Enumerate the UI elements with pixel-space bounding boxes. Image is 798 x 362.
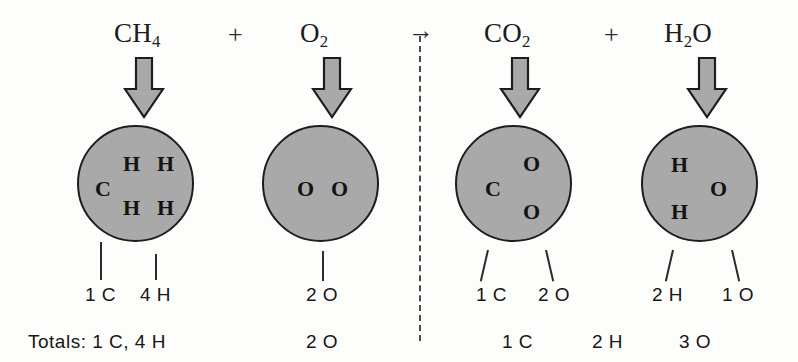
leader-line-oxygen xyxy=(322,251,324,281)
atom-label-o: O xyxy=(523,201,540,223)
molecule-circle-carbon-dioxide: C O O xyxy=(455,125,572,242)
down-arrow-icon-methane xyxy=(123,57,165,123)
formula-oxygen-head: O xyxy=(300,18,320,48)
atom-count-oxygen: 2 O xyxy=(306,284,338,306)
atom-label-h: H xyxy=(123,197,140,219)
atom-label-c: C xyxy=(95,178,111,200)
totals-products-hydrogen: 2 H xyxy=(592,331,623,353)
formula-water-tail: O xyxy=(692,18,712,48)
atom-label-o: O xyxy=(710,178,727,200)
totals-products-oxygen: 3 O xyxy=(679,331,711,353)
down-arrow-icon-carbon-dioxide xyxy=(499,57,541,123)
down-arrow-icon-oxygen xyxy=(311,57,353,123)
combustion-atom-balance-diagram: CH4 + O2 → CO2 + H2O C H H xyxy=(0,0,798,362)
atom-label-h: H xyxy=(671,154,688,176)
leader-line-methane-carbon xyxy=(100,242,102,280)
formula-water-head: H xyxy=(664,18,684,48)
totals-reactants-carbon-hydrogen: Totals: 1 C, 4 H xyxy=(28,331,166,353)
atom-count-methane-hydrogen: 4 H xyxy=(140,284,171,306)
reactant-product-divider xyxy=(419,36,421,341)
totals-reactants-oxygen: 2 O xyxy=(306,331,338,353)
molecule-circle-methane: C H H H H xyxy=(77,125,194,242)
atom-label-h: H xyxy=(671,201,688,223)
atom-count-water-oxygen: 1 O xyxy=(722,284,754,306)
leader-line-methane-hydrogen xyxy=(155,254,157,280)
reaction-arrow-icon: → xyxy=(408,18,434,44)
totals-products-carbon: 1 C xyxy=(502,331,533,353)
leader-line-water-oxygen xyxy=(731,250,740,282)
leader-line-carbon-dioxide-oxygen xyxy=(545,250,554,282)
leader-line-carbon-dioxide-carbon xyxy=(480,250,489,282)
formula-methane: CH4 xyxy=(114,18,160,52)
atom-count-water-hydrogen: 2 H xyxy=(652,284,683,306)
formula-water-subscript: 2 xyxy=(684,32,692,51)
atom-count-carbon-dioxide-carbon: 1 C xyxy=(476,284,507,306)
atom-count-methane-carbon: 1 C xyxy=(85,284,116,306)
molecule-circle-water: H H O xyxy=(641,125,758,242)
down-arrow-icon-water xyxy=(686,57,728,123)
formula-methane-subscript: 4 xyxy=(152,32,160,51)
atom-label-h: H xyxy=(157,153,174,175)
formula-water: H2O xyxy=(664,18,712,52)
atom-label-o: O xyxy=(331,178,348,200)
molecule-circle-oxygen: O O xyxy=(262,125,379,242)
atom-label-o: O xyxy=(297,178,314,200)
atom-label-c: C xyxy=(485,178,501,200)
plus-sign-reactants: + xyxy=(228,20,243,50)
formula-methane-head: CH xyxy=(114,18,152,48)
formula-oxygen: O2 xyxy=(300,18,328,52)
plus-sign-products: + xyxy=(604,20,619,50)
formula-carbon-dioxide: CO2 xyxy=(484,18,530,52)
atom-label-o: O xyxy=(523,153,540,175)
formula-carbon-dioxide-subscript: 2 xyxy=(522,32,530,51)
formula-carbon-dioxide-head: CO xyxy=(484,18,522,48)
atom-count-carbon-dioxide-oxygen: 2 O xyxy=(538,284,570,306)
leader-line-water-hydrogen xyxy=(665,250,674,282)
formula-oxygen-subscript: 2 xyxy=(320,32,328,51)
atom-label-h: H xyxy=(157,197,174,219)
atom-label-h: H xyxy=(123,153,140,175)
